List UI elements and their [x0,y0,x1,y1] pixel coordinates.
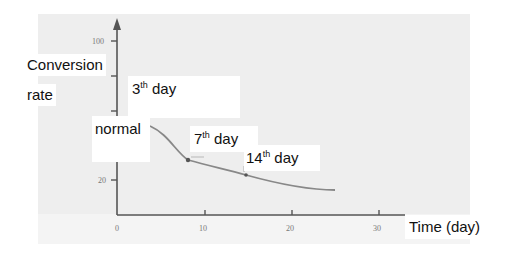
x-tick-label-0: 0 [115,224,119,233]
annotation-day-7-sup: th [202,130,210,140]
y-axis-label-line1: Conversion [24,54,106,76]
y-tick-label-100: 100 [92,37,104,46]
y-axis-label-line2: rate [24,84,56,106]
annotation-day-3-word: day [148,80,176,97]
y-tick-label-20: 20 [98,176,106,185]
annotation-day-14-word: day [270,149,298,166]
annotation-day-14: 14th day [244,145,320,171]
x-tick-label-30: 30 [373,224,381,233]
annotation-normal: normal [92,116,150,162]
x-tick-label-10: 10 [199,224,207,233]
annotation-day-14-num: 14 [246,149,263,166]
annotation-day-7-word: day [210,130,238,147]
x-tick-label-20: 20 [286,224,294,233]
point-day-7 [186,158,190,162]
y-axis-arrow-icon [113,18,121,30]
annotation-day-3: 3th day [128,76,240,118]
point-day-14 [244,173,248,177]
x-axis-label: Time (day) [405,215,484,239]
annotation-day-3-sup: th [140,80,148,90]
